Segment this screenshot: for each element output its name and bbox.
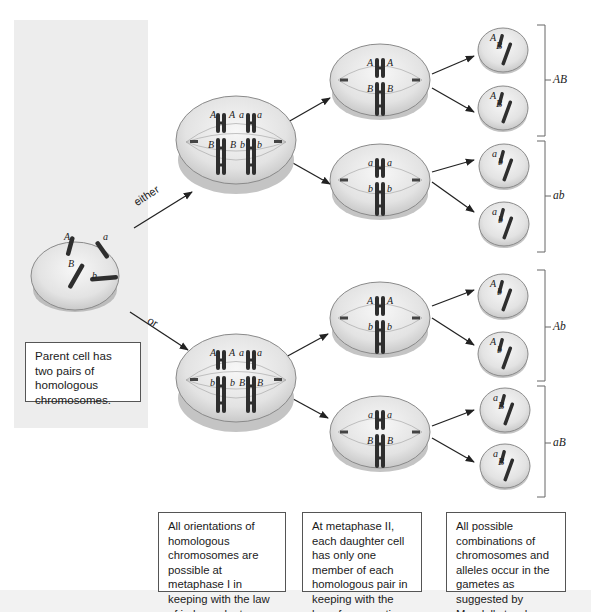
svg-text:a: a xyxy=(387,157,392,168)
svg-text:B: B xyxy=(367,83,373,94)
svg-text:a: a xyxy=(387,409,392,420)
svg-text:a: a xyxy=(492,148,497,159)
svg-text:B: B xyxy=(498,456,504,467)
svg-text:a: a xyxy=(492,206,497,217)
svg-text:A: A xyxy=(366,57,374,68)
svg-text:b: b xyxy=(498,156,503,167)
svg-text:b: b xyxy=(368,183,373,194)
svg-text:A: A xyxy=(209,347,217,358)
parent-cell-caption: Parent cell has two pairs of homologous … xyxy=(25,342,141,402)
svg-text:a: a xyxy=(257,347,262,358)
svg-text:B: B xyxy=(230,139,236,150)
svg-text:B: B xyxy=(496,40,502,51)
svg-text:A: A xyxy=(228,347,236,358)
gamete-group-label-ab: ab xyxy=(553,189,565,201)
gamete-group-label-AB: AB xyxy=(553,73,567,85)
svg-text:b: b xyxy=(92,270,97,281)
svg-text:a: a xyxy=(368,157,373,168)
svg-text:B: B xyxy=(68,258,74,269)
svg-text:a: a xyxy=(257,109,262,120)
svg-text:b: b xyxy=(210,377,215,388)
svg-text:A: A xyxy=(209,109,217,120)
svg-text:B: B xyxy=(387,83,393,94)
svg-text:b: b xyxy=(387,321,392,332)
svg-text:b: b xyxy=(257,139,262,150)
svg-text:B: B xyxy=(387,435,393,446)
svg-text:A: A xyxy=(489,336,497,347)
gamete-group-label-Ab: Ab xyxy=(553,320,566,332)
svg-text:B: B xyxy=(367,435,373,446)
svg-text:A: A xyxy=(386,57,394,68)
svg-text:A: A xyxy=(489,278,497,289)
svg-text:b: b xyxy=(498,214,503,225)
svg-text:A: A xyxy=(386,295,394,306)
metaphase-I-cell-either: AA aa BB bb xyxy=(176,96,296,194)
metaphase-I-cell-or: AA aa bb BB xyxy=(176,334,296,432)
svg-text:b: b xyxy=(497,286,502,297)
svg-text:A: A xyxy=(228,109,236,120)
svg-text:a: a xyxy=(368,409,373,420)
svg-text:b: b xyxy=(230,377,235,388)
gametes: AB AB ab ab Ab Ab aB aB xyxy=(478,28,530,490)
metaphase-I-caption: All orientations of homologous chromosom… xyxy=(158,512,286,592)
metaphase-II-cells: AA BB aa bb AA bb aa BB xyxy=(330,44,430,472)
svg-text:B: B xyxy=(257,377,263,388)
svg-text:b: b xyxy=(368,321,373,332)
svg-text:B: B xyxy=(498,400,504,411)
svg-text:b: b xyxy=(240,139,245,150)
svg-text:a: a xyxy=(103,231,108,242)
svg-text:B: B xyxy=(208,139,214,150)
svg-text:A: A xyxy=(63,231,71,242)
svg-text:a: a xyxy=(239,347,244,358)
svg-text:A: A xyxy=(366,295,374,306)
gametes-caption: All possible combinations of chromosomes… xyxy=(446,512,566,592)
svg-text:b: b xyxy=(387,183,392,194)
metaphase-II-caption: At metaphase II, each daughter cell has … xyxy=(302,512,422,592)
svg-text:b: b xyxy=(497,344,502,355)
svg-text:B: B xyxy=(496,98,502,109)
svg-text:a: a xyxy=(239,109,244,120)
gamete-brackets xyxy=(537,25,551,497)
svg-text:B: B xyxy=(239,377,245,388)
parent-cell: A a B b xyxy=(31,231,119,312)
gamete-group-label-aB: aB xyxy=(553,436,566,448)
